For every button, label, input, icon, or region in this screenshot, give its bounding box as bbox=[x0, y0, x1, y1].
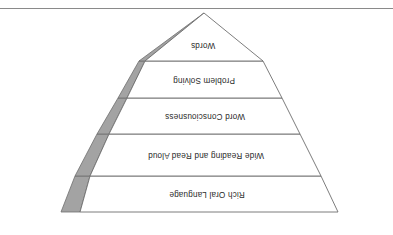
band-label-words: Words bbox=[191, 41, 215, 50]
band-label-rich-oral-language: Rich Oral Language bbox=[169, 190, 245, 199]
pyramid-figure: Rich Oral Language Wide Reading and Read… bbox=[0, 0, 393, 235]
band-label-wide-reading-and-read-aloud: Wide Reading and Read Aloud bbox=[148, 151, 264, 160]
page-canvas: Rich Oral Language Wide Reading and Read… bbox=[0, 0, 393, 235]
band-label-word-consciousness: Word Consciousness bbox=[165, 112, 245, 121]
band-shape-5 bbox=[145, 13, 263, 61]
pyramid-svg: Rich Oral Language Wide Reading and Read… bbox=[0, 0, 393, 235]
band-label-problem-solving: Problem Solving bbox=[173, 76, 235, 85]
